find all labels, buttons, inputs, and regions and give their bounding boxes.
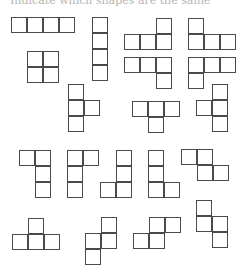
square-cell [196, 216, 212, 232]
square-cell [212, 232, 228, 248]
square-cell [67, 166, 83, 182]
square-cell [188, 73, 204, 89]
square-cell [212, 100, 228, 116]
square-cell [27, 51, 43, 67]
square-cell [149, 217, 165, 233]
square-cell [35, 150, 51, 166]
square-cell [156, 34, 172, 50]
square-cell [164, 182, 180, 198]
square-cell [164, 101, 180, 117]
square-cell [100, 182, 116, 198]
square-cell [92, 65, 108, 81]
square-cell [59, 17, 75, 33]
square-cell [12, 234, 28, 250]
square-cell [156, 57, 172, 73]
square-cell [116, 182, 132, 198]
square-cell [212, 216, 228, 232]
square-cell [204, 57, 220, 73]
square-cell [204, 34, 220, 50]
square-cell [19, 150, 35, 166]
cropped-instruction-text: Indicate which shapes are the same [10, 0, 210, 7]
square-cell [28, 234, 44, 250]
square-cell [124, 34, 140, 50]
square-cell [116, 166, 132, 182]
square-cell [67, 150, 83, 166]
square-cell [181, 149, 197, 165]
square-cell [197, 165, 213, 181]
square-cell [68, 116, 84, 132]
square-cell [11, 17, 27, 33]
square-cell [85, 249, 101, 265]
square-cell [156, 18, 172, 34]
square-cell [43, 67, 59, 83]
square-cell [43, 17, 59, 33]
square-cell [92, 33, 108, 49]
square-cell [116, 150, 132, 166]
square-cell [149, 233, 165, 249]
square-cell [165, 217, 181, 233]
square-cell [28, 218, 44, 234]
square-cell [148, 166, 164, 182]
square-cell [220, 34, 236, 50]
square-cell [43, 51, 59, 67]
square-cell [27, 67, 43, 83]
square-cell [156, 73, 172, 89]
square-cell [124, 57, 140, 73]
square-cell [148, 117, 164, 133]
square-cell [133, 233, 149, 249]
square-cell [27, 17, 43, 33]
square-cell [220, 57, 236, 73]
square-cell [140, 34, 156, 50]
square-cell [83, 150, 99, 166]
square-cell [196, 100, 212, 116]
square-cell [68, 84, 84, 100]
square-cell [196, 200, 212, 216]
square-cell [148, 182, 164, 198]
square-cell [35, 166, 51, 182]
square-cell [92, 49, 108, 65]
square-cell [44, 234, 60, 250]
square-cell [101, 233, 117, 249]
square-cell [35, 182, 51, 198]
square-cell [84, 100, 100, 116]
square-cell [92, 17, 108, 33]
square-cell [212, 116, 228, 132]
square-cell [85, 233, 101, 249]
square-cell [188, 34, 204, 50]
square-cell [212, 84, 228, 100]
square-cell [213, 165, 229, 181]
square-cell [148, 150, 164, 166]
square-cell [188, 18, 204, 34]
square-cell [67, 182, 83, 198]
square-cell [101, 217, 117, 233]
square-cell [188, 57, 204, 73]
square-cell [197, 149, 213, 165]
square-cell [140, 57, 156, 73]
square-cell [148, 101, 164, 117]
square-cell [68, 100, 84, 116]
square-cell [132, 101, 148, 117]
